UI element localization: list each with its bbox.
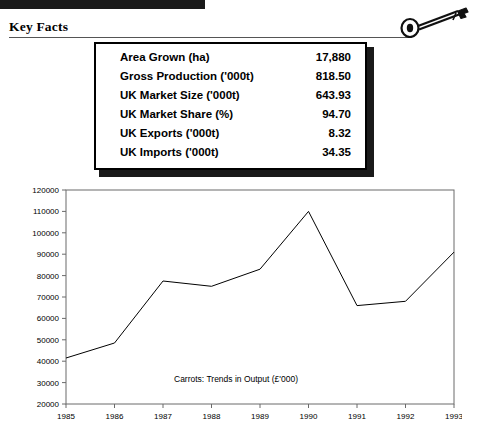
fact-label: UK Market Share (%) <box>120 108 233 120</box>
title-divider <box>9 37 409 38</box>
x-tick-label: 1993 <box>445 412 462 421</box>
fact-value: 94.70 <box>322 108 351 120</box>
fact-row: UK Market Share (%) 94.70 <box>120 108 351 127</box>
y-tick-label: 50000 <box>37 336 60 345</box>
fact-value: 643.93 <box>316 89 351 101</box>
y-tick-label: 20000 <box>37 400 60 409</box>
fact-row: UK Exports ('000t) 8.32 <box>120 127 351 146</box>
data-series-line <box>66 211 454 358</box>
y-tick-label: 100000 <box>32 229 59 238</box>
y-tick-label: 80000 <box>37 272 60 281</box>
x-tick-label: 1992 <box>397 412 415 421</box>
header-accent-bar <box>0 0 205 9</box>
key-facts-panel: Area Grown (ha) 17,880 Gross Production … <box>94 42 367 170</box>
x-tick-label: 1991 <box>348 412 366 421</box>
fact-row: Area Grown (ha) 17,880 <box>120 51 351 70</box>
fact-row: UK Market Size ('000t) 643.93 <box>120 89 351 108</box>
y-tick-label: 40000 <box>37 357 60 366</box>
fact-label: UK Imports ('000t) <box>120 146 219 158</box>
x-tick-label: 1988 <box>203 412 221 421</box>
fact-label: Area Grown (ha) <box>120 51 209 63</box>
x-tick-label: 1990 <box>300 412 318 421</box>
y-axis-ticks: 1200001100001000009000080000700006000050… <box>32 186 66 409</box>
y-tick-label: 60000 <box>37 314 60 323</box>
fact-label: UK Exports ('000t) <box>120 127 219 139</box>
x-tick-label: 1987 <box>154 412 172 421</box>
fact-row: UK Imports ('000t) 34.35 <box>120 146 351 165</box>
fact-row: Gross Production ('000t) 818.50 <box>120 70 351 89</box>
x-axis-ticks: 198519861987198819891990199119921993 <box>57 404 462 421</box>
key-icon <box>398 2 474 38</box>
fact-value: 34.35 <box>322 146 351 158</box>
fact-value: 8.32 <box>329 127 351 139</box>
y-tick-label: 120000 <box>32 186 59 195</box>
x-tick-label: 1985 <box>57 412 75 421</box>
y-tick-label: 30000 <box>37 379 60 388</box>
x-tick-label: 1986 <box>106 412 124 421</box>
fact-value: 818.50 <box>316 70 351 82</box>
plot-area-border <box>66 190 454 404</box>
y-tick-label: 110000 <box>33 207 60 216</box>
page-title: Key Facts <box>9 19 68 35</box>
chart-caption: Carrots: Trends in Output (£'000) <box>174 374 298 384</box>
x-tick-label: 1989 <box>251 412 269 421</box>
fact-label: Gross Production ('000t) <box>120 70 254 82</box>
y-tick-label: 70000 <box>37 293 60 302</box>
y-tick-label: 90000 <box>37 250 60 259</box>
fact-label: UK Market Size ('000t) <box>120 89 240 101</box>
output-trend-chart: 1200001100001000009000080000700006000050… <box>22 183 462 435</box>
fact-value: 17,880 <box>316 51 351 63</box>
